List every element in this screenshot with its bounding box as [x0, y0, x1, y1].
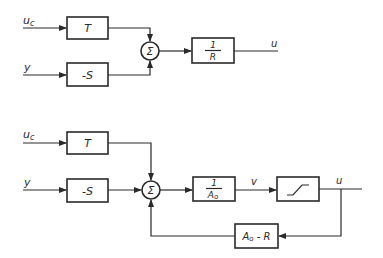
top-sum-symbol: Σ	[147, 45, 154, 58]
bottom-diagram: uc T y -S Σ 1 Ao v u Ao - R	[23, 128, 362, 248]
bottom-t-to-sum-wire	[108, 143, 151, 180]
top-t-to-sum-wire	[108, 28, 150, 41]
bottom-feedback-label: Ao - R	[241, 231, 270, 243]
top-input-uc-label: uc	[23, 14, 35, 28]
top-output-u-label: u	[271, 38, 277, 49]
bottom-input-uc-label: uc	[23, 128, 35, 142]
top-s-label: -S	[82, 69, 93, 82]
top-input-y-label: y	[23, 61, 31, 74]
bottom-input-y-label: y	[23, 176, 31, 189]
top-diagram: uc T y -S Σ 1 R u	[23, 14, 278, 86]
bottom-a-numerator: 1	[211, 178, 217, 188]
bottom-feedback-to-sum-wire	[151, 200, 235, 236]
top-r-denominator: R	[210, 52, 216, 62]
top-s-to-sum-wire	[108, 61, 150, 75]
block-diagram: uc T y -S Σ 1 R u uc T y -S	[0, 0, 383, 258]
top-r-numerator: 1	[210, 40, 216, 50]
bottom-output-u-label: u	[336, 175, 342, 186]
bottom-sum-symbol: Σ	[148, 184, 155, 197]
bottom-s-label: -S	[82, 185, 93, 198]
bottom-v-label: v	[251, 176, 258, 187]
